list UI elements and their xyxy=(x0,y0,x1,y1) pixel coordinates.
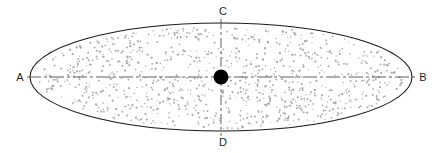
center-point-dot xyxy=(214,70,229,85)
axis-label-a: A xyxy=(16,71,24,83)
ellipse-diagram-figure: A B C D xyxy=(0,0,438,153)
axis-label-b: B xyxy=(419,71,427,83)
diagram-canvas: A B C D xyxy=(0,0,438,153)
axis-label-d: D xyxy=(219,136,227,148)
axis-label-c: C xyxy=(219,5,227,17)
